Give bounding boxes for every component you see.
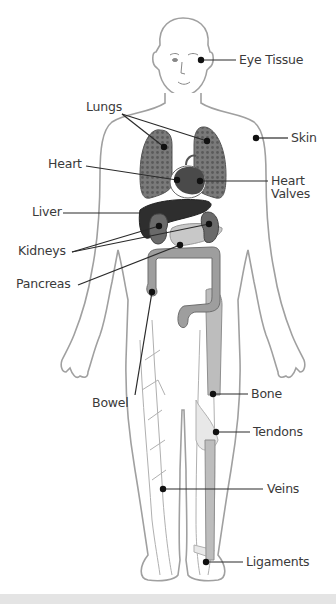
label-heart-valves-line2: Valves: [271, 187, 310, 200]
skin-dot: [253, 135, 259, 141]
body-diagram: [0, 0, 336, 604]
bowel-dot: [149, 289, 155, 295]
kidney-right-dot: [206, 221, 212, 227]
label-eye-tissue: Eye Tissue: [239, 53, 303, 66]
label-heart: Heart: [48, 157, 82, 170]
eye-tissue-dot: [198, 57, 204, 63]
veins-dot: [160, 486, 166, 492]
label-bowel: Bowel: [92, 396, 129, 409]
label-kidneys: Kidneys: [18, 244, 66, 257]
tendons-dot: [213, 429, 219, 435]
label-ligaments: Ligaments: [246, 555, 309, 568]
bone-dot: [210, 391, 216, 397]
label-lungs: Lungs: [86, 100, 122, 113]
label-liver: Liver: [32, 205, 62, 218]
pancreas-dot: [177, 242, 183, 248]
label-veins: Veins: [267, 482, 299, 495]
label-pancreas: Pancreas: [16, 277, 71, 290]
label-tendons: Tendons: [253, 425, 303, 438]
label-skin: Skin: [291, 131, 317, 144]
lung-right-dot: [204, 138, 210, 144]
heart-valve-dot: [197, 178, 203, 184]
kidney-left-dot: [156, 223, 162, 229]
heart-dot: [174, 177, 180, 183]
ligaments-dot: [203, 559, 209, 565]
lung-left-dot: [161, 144, 167, 150]
label-bone: Bone: [251, 387, 282, 400]
footer-strip: [0, 594, 336, 604]
